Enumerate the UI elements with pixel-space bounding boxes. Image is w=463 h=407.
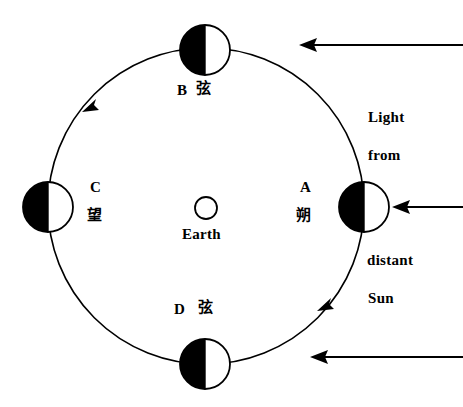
moon-c-lit-half	[48, 182, 73, 232]
moon-d-dark-half	[180, 339, 205, 389]
lunar-phase-diagram: B 弦 D 弦 C 望 A 朔 Earth Light from distant…	[0, 0, 463, 407]
moon-d-cjk-label: 弦	[198, 300, 213, 315]
moon-marker-d	[180, 339, 230, 389]
sunlight-caption-line-2: from	[368, 148, 401, 163]
sunlight-ray-bottom	[310, 350, 463, 364]
earth-circle	[195, 197, 217, 219]
moon-c-letter-label: C	[90, 180, 101, 195]
moon-b-lit-half	[205, 25, 230, 75]
sunlight-caption-line-3: distant	[367, 253, 413, 268]
sunlight-ray-middle	[392, 200, 463, 214]
earth-label: Earth	[182, 227, 221, 242]
moon-b-dark-half	[180, 25, 205, 75]
moon-a-lit-half	[364, 182, 389, 232]
sunlight-caption-line-4: Sun	[368, 291, 394, 306]
moon-c-cjk-label: 望	[87, 208, 102, 223]
sunlight-caption-line-1: Light	[368, 110, 405, 125]
moon-d-letter-label: D	[174, 302, 185, 317]
moon-b-cjk-label: 弦	[196, 81, 211, 96]
moon-d-lit-half	[205, 339, 230, 389]
moon-b-letter-label: B	[177, 83, 187, 98]
moon-marker-b	[180, 25, 230, 75]
moon-a-letter-label: A	[300, 180, 311, 195]
diagram-canvas	[0, 0, 463, 407]
moon-c-dark-half	[23, 182, 48, 232]
sunlight-ray-top	[299, 38, 463, 52]
orbit-direction-arrow-lower-right	[317, 298, 334, 311]
moon-a-dark-half	[339, 182, 364, 232]
moon-marker-a	[339, 182, 389, 232]
moon-a-cjk-label: 朔	[296, 208, 311, 223]
moon-marker-c	[23, 182, 73, 232]
